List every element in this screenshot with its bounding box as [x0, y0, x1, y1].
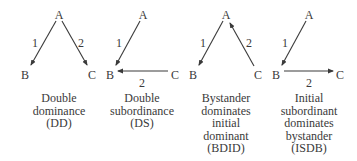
- node-c: C: [336, 68, 344, 82]
- node-b: B: [272, 68, 280, 82]
- node-a: A: [222, 8, 231, 22]
- edge-order-label: 1: [116, 36, 122, 50]
- node-c: C: [171, 68, 179, 82]
- caption-line: (BDID): [207, 141, 244, 155]
- node-a: A: [139, 8, 148, 22]
- node-a: A: [305, 8, 314, 22]
- caption: Doubledominance(DD): [33, 91, 86, 130]
- node-c: C: [88, 68, 96, 82]
- node-a: A: [55, 8, 64, 22]
- caption: Bystanderdominatesinitialdominant(BDID): [201, 91, 251, 155]
- node-b: B: [106, 68, 114, 82]
- caption-line: (ISDB): [291, 141, 326, 155]
- edge-order-label: 2: [306, 76, 312, 90]
- panels: 12ABCDoubledominance(DD)12ABCDoublesubor…: [21, 8, 344, 155]
- edge-order-label: 2: [78, 36, 84, 50]
- edge-order-label: 1: [32, 36, 38, 50]
- edge-order-label: 2: [139, 76, 145, 90]
- panel-bdid: 12ABCBystanderdominatesinitialdominant(B…: [189, 8, 262, 155]
- edge-order-label: 1: [282, 36, 288, 50]
- panel-isdb: 12ABCInitialsubordinantdominatesbystande…: [272, 8, 344, 155]
- node-c: C: [254, 68, 262, 82]
- dominance-diagram: 12ABCDoubledominance(DD)12ABCDoublesubor…: [0, 0, 357, 161]
- node-b: B: [189, 68, 197, 82]
- caption-line: (DS): [130, 116, 153, 130]
- panel-ds: 12ABCDoublesubordinance(DS): [106, 8, 179, 130]
- caption-line: (DD): [46, 116, 71, 130]
- caption: Doublesubordinance(DS): [110, 91, 174, 130]
- edge-order-label: 2: [246, 36, 252, 50]
- edge-order-label: 1: [200, 36, 206, 50]
- caption: Initialsubordinantdominatesbystander(ISD…: [281, 91, 338, 155]
- panel-dd: 12ABCDoubledominance(DD): [21, 8, 96, 130]
- node-b: B: [21, 68, 29, 82]
